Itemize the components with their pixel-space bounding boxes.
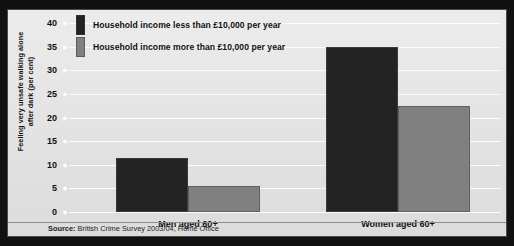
y-axis-tick-marker [63,163,67,167]
y-axis-tick-label: 0 [27,207,57,217]
bar [188,186,260,212]
legend-label-low-income: Household income less than £10,000 per y… [93,20,281,30]
legend-item: Household income more than £10,000 per y… [76,36,285,58]
y-axis-tick-label: 25 [27,89,57,99]
y-axis-tick-marker [63,140,67,144]
gridline [69,70,501,71]
y-axis-tick-marker [63,211,67,215]
source-prefix: Source: [48,224,76,233]
chart-figure: Feeling very unsafe walking alone after … [0,0,514,246]
y-axis-tick-marker [63,22,67,26]
axis-baseline [69,212,501,213]
y-axis-tick-marker [63,45,67,49]
category-label: Women aged 60+ [326,219,470,229]
y-axis-tick-label: 10 [27,160,57,170]
legend-item: Household income less than £10,000 per y… [76,14,285,36]
y-axis-tick-label: 5 [27,183,57,193]
legend-label-high-income: Household income more than £10,000 per y… [93,42,285,52]
bar [398,106,470,212]
y-axis-tick-label: 40 [27,18,57,28]
source-text: British Crime Survey 2003/04, Home Offic… [78,224,219,233]
y-axis-tick-label: 30 [27,65,57,75]
legend-swatch-high-income [76,37,85,57]
y-axis-tick-label: 35 [27,42,57,52]
y-axis-tick-marker [63,69,67,73]
bar [116,158,188,212]
y-axis-tick-label: 20 [27,113,57,123]
y-axis-tick-label: 15 [27,136,57,146]
gridline [69,94,501,95]
source-divider [8,222,506,223]
bar [326,47,398,212]
y-axis-tick-marker [63,92,67,96]
source-note: Source: British Crime Survey 2003/04, Ho… [48,224,219,233]
y-axis-title-line1: Feeling very unsafe walking alone [16,32,25,152]
y-axis-tick-marker [63,187,67,191]
y-axis-tick-marker [63,116,67,120]
chart-legend: Household income less than £10,000 per y… [76,14,285,58]
legend-swatch-low-income [76,15,85,35]
chart-panel: Feeling very unsafe walking alone after … [7,9,507,237]
